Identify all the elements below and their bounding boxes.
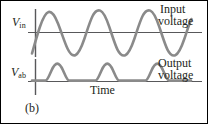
input-voltage-annotation-line2: voltage [158,15,193,27]
output-voltage-annotation-line2: voltage [158,69,193,81]
input-voltage-subscript: in [19,21,25,30]
rectifier-waveform-figure: Vin Vab Input voltage Output voltage Tim… [0,0,208,124]
output-voltage-subscript: ab [18,71,26,80]
time-axis-label: Time [90,84,115,96]
output-voltage-axis-label: Vab [11,66,26,78]
panel-label: (b) [25,102,39,114]
input-voltage-axis-label: Vin [12,16,26,28]
